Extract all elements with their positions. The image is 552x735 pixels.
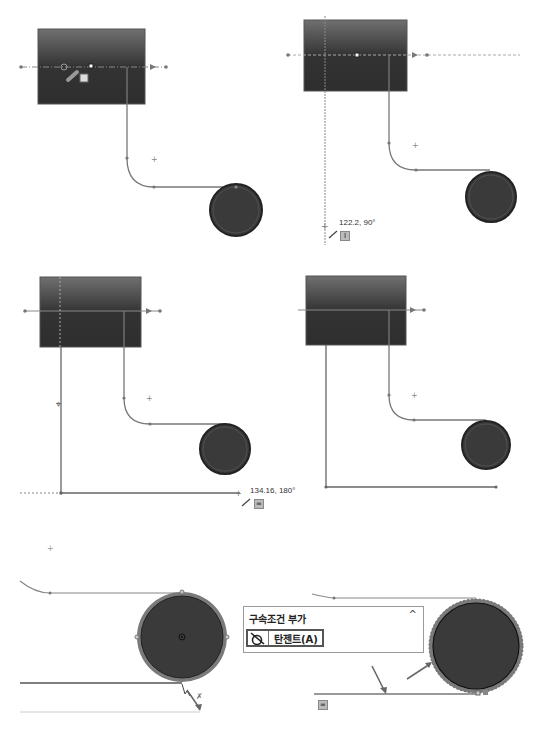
vertical-relation-icon: I: [340, 231, 350, 241]
chevron-up-icon[interactable]: ^: [409, 609, 417, 620]
path-arc: [127, 158, 154, 187]
tangent-icon: [248, 631, 269, 645]
svg-text:+: +: [235, 489, 242, 498]
tangent-relation-icon: [483, 690, 488, 695]
svg-text:⌖: ⌖: [56, 399, 61, 409]
add-relation-popup: 구속조건 부가 ^ 탄젠트(A): [243, 606, 424, 653]
popup-title: 구속조건 부가: [249, 611, 306, 626]
panel-step-5: + ✗: [20, 544, 229, 712]
svg-text:+: +: [412, 141, 419, 150]
panel-step-2: + +: [286, 16, 520, 245]
tangent-button-label: 탄젠트(A): [269, 631, 322, 646]
circle[interactable]: [462, 421, 510, 469]
svg-text:+: +: [151, 155, 158, 164]
tangent-button[interactable]: 탄젠트(A): [246, 629, 324, 647]
horizontal-relation-icon: =: [254, 499, 264, 509]
block[interactable]: [40, 277, 141, 347]
svg-text:+: +: [321, 221, 329, 231]
dimension-label-step-2: 122.2, 90°: [339, 218, 376, 227]
svg-text:+: +: [411, 391, 418, 400]
pencil-cursor-icon: [242, 499, 250, 506]
circle[interactable]: [466, 172, 516, 222]
svg-text:✗: ✗: [196, 692, 203, 701]
dimension-label-step-3: 134.16, 180°: [250, 486, 295, 495]
circle[interactable]: [200, 424, 250, 474]
circle[interactable]: [210, 184, 262, 236]
svg-text:+: +: [47, 544, 54, 553]
arrow-to-circle: [407, 664, 430, 679]
mouse-cursor-icon: [182, 684, 190, 696]
pencil-cursor-icon: [329, 231, 337, 238]
svg-text:+: +: [146, 394, 153, 403]
horizontal-relation-icon: =: [318, 700, 328, 710]
origin-point: [89, 64, 93, 68]
panel-step-3: ⌖ + +: [20, 277, 250, 506]
snap-icon: [80, 74, 88, 82]
panel-step-1: +: [19, 29, 262, 236]
panel-step-4: +: [298, 276, 510, 489]
